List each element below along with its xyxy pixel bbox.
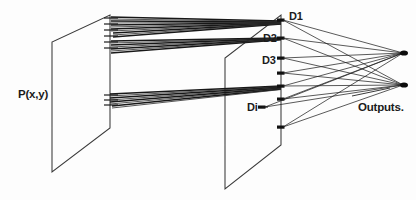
detector-3-label: D3 [262,54,276,66]
detector-2-label: D2 [263,32,277,44]
schematic-drawing [0,0,416,200]
output-node-2 [400,82,408,87]
figure-canvas: P(x,y) D1 D2 D3 Di Outputs. [0,0,416,200]
output-nodes [400,50,408,87]
input-plane-outline [52,15,110,172]
output-node-1 [400,50,408,55]
outputs-label: Outputs. [358,101,404,113]
detector-i-label: Di [247,101,258,113]
detector-1-label: D1 [289,10,303,22]
input-plane-label: P(x,y) [18,88,48,100]
